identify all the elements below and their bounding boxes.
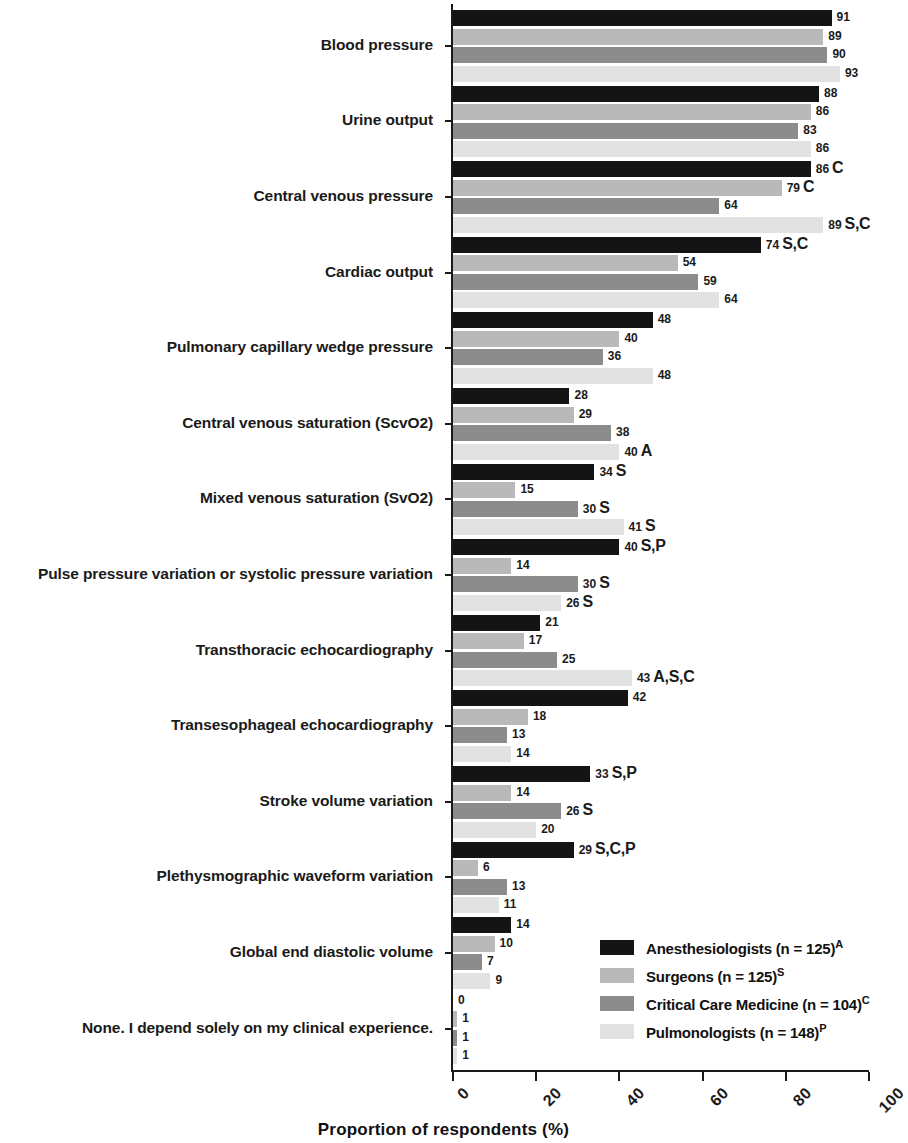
bar-value-label: 7 <box>487 953 494 969</box>
x-axis-tick-label: 40 <box>623 1084 649 1110</box>
bar-row: 14 <box>453 785 908 801</box>
bar <box>453 746 511 762</box>
legend-group-key: A <box>835 938 843 950</box>
bar-group: Pulmonary capillary wedge pressure484036… <box>0 312 887 384</box>
category-label: Global end diastolic volume <box>230 943 433 961</box>
bar-significance-marker: A,S,C <box>653 668 694 685</box>
bar-row: 86C <box>453 161 908 177</box>
bar-row: 89 <box>453 29 908 45</box>
bar-group: Pulse pressure variation or systolic pre… <box>0 539 887 611</box>
bar-row: 18 <box>453 709 908 725</box>
bar <box>453 973 490 989</box>
bar <box>453 785 511 801</box>
bar <box>453 501 578 517</box>
bar-significance-marker: S,P <box>612 764 637 781</box>
x-axis-tick <box>868 1072 870 1081</box>
bar-value-label: 88 <box>824 85 837 101</box>
bar-row: 29 <box>453 407 908 423</box>
y-axis-tick <box>445 574 453 576</box>
legend-item[interactable]: Surgeons (n = 125)S <box>600 962 880 988</box>
x-axis-line <box>451 1070 869 1072</box>
bar-value-label: 17 <box>529 632 542 648</box>
bar-group: Central venous pressure86C79C6489S,C <box>0 161 887 233</box>
x-axis-tick <box>535 1072 537 1081</box>
bar <box>453 368 653 384</box>
bar <box>453 670 632 686</box>
bar-value-label: 43A,S,C <box>637 669 695 686</box>
bar-significance-marker: S <box>583 801 593 818</box>
bar <box>453 66 840 82</box>
x-axis-tick-label: 0 <box>454 1084 473 1103</box>
bar-value-label: 38 <box>616 424 629 440</box>
bar-value-label: 74S,C <box>766 236 808 253</box>
bar <box>453 123 798 139</box>
category-label: Transesophageal echocardiography <box>171 716 433 734</box>
bar-row: 13 <box>453 879 908 895</box>
bar-value-label: 83 <box>803 122 816 138</box>
legend-item[interactable]: Pulmonologists (n = 148)P <box>600 1018 880 1044</box>
bar-row: 11 <box>453 897 908 913</box>
category-label: None. I depend solely on my clinical exp… <box>82 1019 433 1037</box>
y-axis-tick <box>445 423 453 425</box>
legend-item[interactable]: Anesthesiologists (n = 125)A <box>600 934 880 960</box>
bar-value-label: 59 <box>703 273 716 289</box>
bar <box>453 803 561 819</box>
bar-row: 40 <box>453 331 908 347</box>
bar-group: Transthoracic echocardiography21172543A,… <box>0 615 887 687</box>
legend-item[interactable]: Critical Care Medicine (n = 104)C <box>600 990 880 1016</box>
bar <box>453 407 574 423</box>
y-axis-tick <box>445 498 453 500</box>
bar-value-label: 29 <box>579 406 592 422</box>
legend-swatch <box>600 1024 634 1039</box>
bar-row: 29S,C,P <box>453 842 908 858</box>
x-axis-title: Proportion of respondents (%) <box>0 1120 887 1140</box>
bar-value-label: 33S,P <box>595 765 636 782</box>
bar-group: Stroke volume variation33S,P1426S20 <box>0 766 887 838</box>
y-axis-tick <box>445 196 453 198</box>
bar <box>453 425 611 441</box>
bar <box>453 180 782 196</box>
bar-value-label: 93 <box>845 65 858 81</box>
bar-group: Blood pressure91899093 <box>0 10 887 82</box>
category-label: Plethysmographic waveform variation <box>157 867 433 885</box>
bar-row: 1 <box>453 1048 908 1064</box>
bar-row: 91 <box>453 10 908 26</box>
legend-swatch <box>600 968 634 983</box>
bar-significance-marker: S <box>616 462 626 479</box>
bar <box>453 292 719 308</box>
x-axis-tick-label: 80 <box>789 1084 815 1110</box>
bar-row: 83 <box>453 123 908 139</box>
bar-row: 30S <box>453 501 908 517</box>
bar-value-label: 41S <box>629 518 656 535</box>
bar-value-label: 10 <box>500 935 513 951</box>
bar-value-label: 40S,P <box>624 538 665 555</box>
bar-row: 25 <box>453 652 908 668</box>
bar-row: 26S <box>453 803 908 819</box>
bar-value-label: 34S <box>599 463 626 480</box>
legend-label: Surgeons (n = 125)S <box>646 966 784 985</box>
bar-value-label: 6 <box>483 859 490 875</box>
bar-value-label: 0 <box>458 992 465 1008</box>
bar <box>453 388 569 404</box>
bar <box>453 217 823 233</box>
bar-row: 14 <box>453 917 908 933</box>
bar-row: 38 <box>453 425 908 441</box>
chart-legend: Anesthesiologists (n = 125)ASurgeons (n … <box>600 934 880 1046</box>
bar-row: 54 <box>453 255 908 271</box>
category-label: Cardiac output <box>325 263 433 281</box>
bar-value-label: 28 <box>574 387 587 403</box>
y-axis-tick <box>445 1028 453 1030</box>
bar-row: 14 <box>453 746 908 762</box>
x-axis-tick-label: 20 <box>540 1084 566 1110</box>
bar-significance-marker: S,C,P <box>595 840 635 857</box>
bar-row: 33S,P <box>453 766 908 782</box>
bar-significance-marker: A <box>641 442 652 459</box>
bar <box>453 312 653 328</box>
y-axis-tick <box>445 876 453 878</box>
bar-row: 88 <box>453 86 908 102</box>
bar-row: 40A <box>453 444 908 460</box>
bar-value-label: 89S,C <box>828 216 870 233</box>
category-label: Transthoracic echocardiography <box>196 641 433 659</box>
bar-value-label: 89 <box>828 28 841 44</box>
bar <box>453 860 478 876</box>
